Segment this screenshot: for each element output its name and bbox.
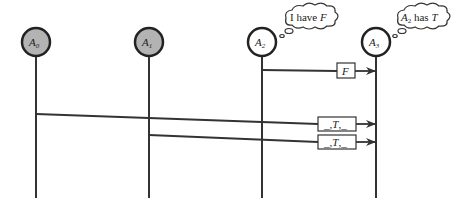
svg-text:A2 has T: A2 has T <box>400 11 438 25</box>
message-a2-to-a3: F <box>262 63 375 78</box>
agent-node-a1: A1 <box>135 28 163 56</box>
svg-text:_,T,_: _,T,_ <box>323 118 347 130</box>
thought-bubble-a3: A2 has T <box>393 3 450 37</box>
sequence-diagram: A0 A1 A2 A3 I have F A2 has T F _,T,_ <box>0 0 463 209</box>
agent-node-a0: A0 <box>22 28 50 56</box>
svg-text:I have F: I have F <box>290 11 327 23</box>
agent-node-a3: A3 <box>362 28 390 56</box>
message-a0-to-a3: _,T,_ <box>36 114 375 131</box>
svg-text:F: F <box>341 65 349 77</box>
agent-node-a2: A2 <box>248 28 276 56</box>
svg-text:_,T,_: _,T,_ <box>323 136 347 148</box>
thought-bubble-a2: I have F <box>280 3 338 37</box>
